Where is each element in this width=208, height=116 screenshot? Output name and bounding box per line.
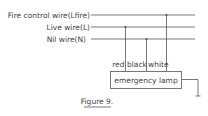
figure-caption: Figure 9. <box>81 97 113 106</box>
connector-label-white: white <box>148 60 169 69</box>
wiring-diagram: Fire control wire(Lfire) Live wire(L) Ni… <box>0 0 208 116</box>
wire-label-nil: Nil wire(N) <box>47 35 86 44</box>
wire-label-live: Live wire(L) <box>47 23 91 32</box>
ground-lead <box>182 80 198 97</box>
wire-label-fire-control: Fire control wire(Lfire) <box>8 11 90 20</box>
emergency-lamp-label: emergency lamp <box>114 76 178 85</box>
connector-label-red: red <box>112 60 125 69</box>
connector-label-black: black <box>127 60 148 69</box>
